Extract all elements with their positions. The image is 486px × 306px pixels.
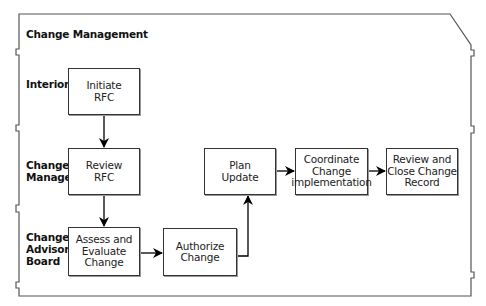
step-authorize-change: AuthorizeChange <box>163 228 237 276</box>
step-text: implementation <box>291 177 371 189</box>
step-text: Plan <box>222 160 259 172</box>
step-text: Record <box>387 177 457 189</box>
lane-label-line: Interior <box>26 78 69 90</box>
step-text: Update <box>222 172 259 184</box>
step-review-close-change-record: Review andClose ChangeRecord <box>386 148 458 195</box>
step-assess-evaluate-change: Assess andEvaluateChange <box>68 227 140 276</box>
step-text: Initiate <box>86 80 121 92</box>
step-coordinate-change-implementation: CoordinateChangeimplementation <box>295 148 368 195</box>
step-text: Change <box>176 252 224 264</box>
step-review-rfc: ReviewRFC <box>68 148 140 195</box>
step-text: Review <box>86 160 122 172</box>
step-text: Change <box>76 257 133 269</box>
step-text: RFC <box>86 92 121 104</box>
lane-label-interior: Interior <box>26 78 69 90</box>
step-text: RFC <box>86 172 122 184</box>
diagram-title: Change Management <box>26 28 148 40</box>
arrow-authorize-to-plan <box>237 196 248 256</box>
step-initiate-rfc: InitiateRFC <box>68 68 140 115</box>
step-plan-update: PlanUpdate <box>204 148 276 195</box>
